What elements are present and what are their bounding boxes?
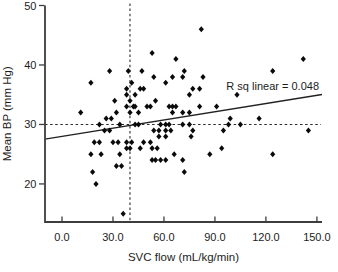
data-point xyxy=(127,145,132,151)
data-point xyxy=(180,110,185,116)
data-point xyxy=(127,110,132,116)
data-point xyxy=(97,139,102,145)
data-point xyxy=(200,74,205,80)
data-point xyxy=(136,122,141,128)
data-point xyxy=(114,163,119,169)
data-point xyxy=(156,133,161,139)
y-axis-title: Mean BP (mm Hg) xyxy=(1,66,13,161)
data-point xyxy=(190,86,195,92)
data-point xyxy=(92,139,97,145)
data-point xyxy=(197,86,202,92)
data-point xyxy=(306,127,311,133)
data-point xyxy=(168,127,173,133)
data-point xyxy=(238,122,243,128)
data-point xyxy=(150,145,155,151)
data-point xyxy=(124,139,129,145)
data-point xyxy=(270,151,275,157)
data-point xyxy=(301,56,306,62)
data-point xyxy=(141,86,146,92)
data-point xyxy=(124,86,129,92)
data-point xyxy=(190,127,195,133)
data-point xyxy=(148,139,153,145)
data-point xyxy=(187,92,192,98)
data-point xyxy=(117,151,122,157)
data-point xyxy=(234,92,239,98)
regression-line xyxy=(45,94,322,139)
data-point xyxy=(126,68,131,74)
data-point xyxy=(119,163,124,169)
data-point xyxy=(124,104,129,110)
data-point xyxy=(114,110,119,116)
x-axis-tick-label: 120.0 xyxy=(252,231,280,243)
data-point xyxy=(214,104,219,110)
data-point xyxy=(182,68,187,74)
data-point xyxy=(104,116,109,122)
data-point xyxy=(170,110,175,116)
data-point xyxy=(90,169,95,175)
data-point xyxy=(226,122,231,128)
data-point xyxy=(173,56,178,62)
data-point xyxy=(156,127,161,133)
data-point xyxy=(88,151,93,157)
data-point xyxy=(155,145,160,151)
data-point xyxy=(139,68,144,74)
data-point xyxy=(167,122,172,128)
data-point xyxy=(129,139,134,145)
data-point xyxy=(136,110,141,116)
x-axis-tick-label: 30.0 xyxy=(102,231,123,243)
data-point xyxy=(78,110,83,116)
data-point xyxy=(221,127,226,133)
data-point xyxy=(170,74,175,80)
data-point xyxy=(124,92,129,98)
data-point xyxy=(93,181,98,187)
data-point xyxy=(180,122,185,128)
data-point xyxy=(207,151,212,157)
chart-canvas: 203040500.030.060.090.0120.0150.0SVC flo… xyxy=(0,0,338,272)
x-axis-tick-label: 150.0 xyxy=(303,231,331,243)
data-point xyxy=(189,133,194,139)
data-point xyxy=(182,169,187,175)
data-point xyxy=(163,80,168,86)
data-point xyxy=(97,122,102,128)
data-point xyxy=(121,211,126,217)
data-point xyxy=(141,139,146,145)
y-axis-tick-label: 40 xyxy=(24,59,36,71)
data-point xyxy=(109,116,114,122)
data-point xyxy=(127,98,132,104)
data-point xyxy=(138,145,143,151)
data-point xyxy=(102,127,107,133)
data-point xyxy=(151,127,156,133)
data-point xyxy=(116,139,121,145)
data-point xyxy=(153,98,158,104)
data-point xyxy=(158,157,163,163)
y-axis-tick-label: 30 xyxy=(24,118,36,130)
data-point xyxy=(187,110,192,116)
data-point xyxy=(180,74,185,80)
data-point xyxy=(270,68,275,74)
data-point xyxy=(199,26,204,32)
data-point xyxy=(180,157,185,163)
x-axis-tick-label: 60.0 xyxy=(153,231,174,243)
x-axis-tick-label: 0.0 xyxy=(54,231,69,243)
data-point xyxy=(163,133,168,139)
data-point xyxy=(163,157,168,163)
data-point xyxy=(99,151,104,157)
data-point xyxy=(88,80,93,86)
r-squared-annotation: R sq linear = 0.048 xyxy=(226,80,319,92)
data-point xyxy=(153,157,158,163)
data-point xyxy=(150,50,155,56)
data-point xyxy=(173,104,178,110)
data-point xyxy=(158,122,163,128)
y-axis-tick-label: 50 xyxy=(24,0,36,12)
data-point xyxy=(219,145,224,151)
data-point xyxy=(112,98,117,104)
data-point xyxy=(151,74,156,80)
data-point xyxy=(228,116,233,122)
scatter-chart: 203040500.030.060.090.0120.0150.0SVC flo… xyxy=(0,0,338,272)
data-point xyxy=(163,127,168,133)
x-axis-title: SVC flow (mL/kg/min) xyxy=(128,251,239,263)
data-point xyxy=(110,139,115,145)
y-axis-tick-label: 20 xyxy=(24,178,36,190)
data-point xyxy=(133,92,138,98)
data-point xyxy=(107,68,112,74)
